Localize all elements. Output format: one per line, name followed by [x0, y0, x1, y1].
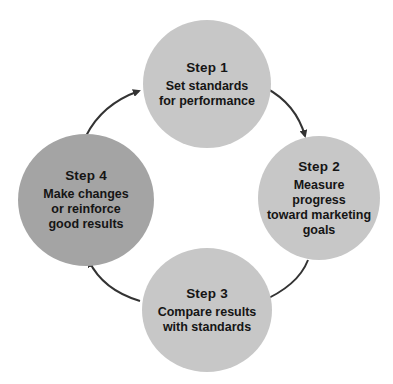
step-1-circle: Step 1 Set standards for performance	[143, 20, 271, 148]
step-3-title: Step 3	[186, 286, 228, 301]
arrow-step3-to-step4	[89, 261, 140, 301]
control-cycle-diagram: Step 1 Set standards for performance Ste…	[0, 0, 393, 384]
step-2-circle: Step 2 Measure progress toward marketing…	[258, 136, 380, 260]
step-2-text: Measure progress toward marketing goals	[267, 178, 371, 238]
step-4-text: Make changes or reinforce good results	[43, 187, 128, 232]
step-4-circle: Step 4 Make changes or reinforce good re…	[18, 134, 154, 266]
step-2-title: Step 2	[298, 159, 340, 174]
step-1-title: Step 1	[186, 60, 228, 75]
step-3-circle: Step 3 Compare results with standards	[142, 248, 272, 372]
arrow-step4-to-step1	[86, 91, 139, 136]
step-4-title: Step 4	[65, 168, 107, 183]
step-3-text: Compare results with standards	[158, 305, 257, 335]
arrow-step1-to-step2	[266, 88, 305, 136]
step-1-text: Set standards for performance	[159, 79, 255, 109]
